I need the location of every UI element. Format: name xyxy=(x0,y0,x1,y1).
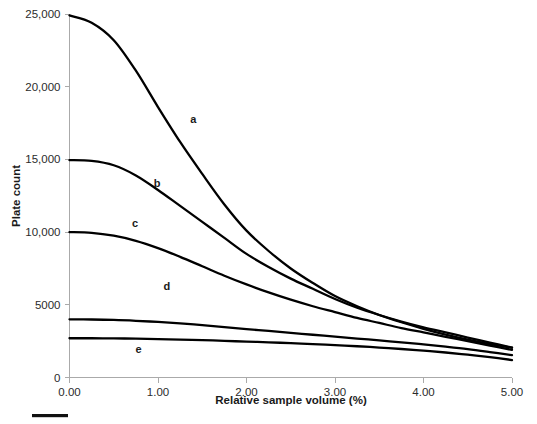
x-tick-label: 4.00 xyxy=(412,386,434,398)
x-tick-label: 5.00 xyxy=(501,386,523,398)
series-label-e: e xyxy=(135,343,141,355)
y-axis-ticks: 0500010,00015,00020,00025,000 xyxy=(25,8,69,384)
series-label-b: b xyxy=(154,177,161,189)
curve-b xyxy=(70,160,513,348)
x-tick-label: 1.00 xyxy=(147,386,169,398)
x-tick-label: 0.00 xyxy=(58,386,80,398)
y-tick-label: 25,000 xyxy=(25,8,60,20)
x-axis-title: Relative sample volume (%) xyxy=(215,394,367,406)
y-tick-label: 15,000 xyxy=(25,153,60,165)
y-tick-label: 5000 xyxy=(35,299,61,311)
curve-a xyxy=(70,15,513,347)
plate-count-line-chart: 0500010,00015,00020,00025,000 0.001.002.… xyxy=(0,0,537,424)
y-axis-title: Plate count xyxy=(10,165,22,227)
series-label-c: c xyxy=(132,217,138,229)
series-labels: abcde xyxy=(132,113,197,355)
series-label-d: d xyxy=(163,280,170,292)
y-tick-label: 20,000 xyxy=(25,81,60,93)
chart-figure: 0500010,00015,00020,00025,000 0.001.002.… xyxy=(0,0,537,424)
y-tick-label: 10,000 xyxy=(25,226,60,238)
footer-rule xyxy=(32,414,68,417)
y-tick-label: 0 xyxy=(54,372,60,384)
plot-axes xyxy=(70,14,513,378)
series-label-a: a xyxy=(190,113,197,125)
data-curves xyxy=(70,15,513,360)
